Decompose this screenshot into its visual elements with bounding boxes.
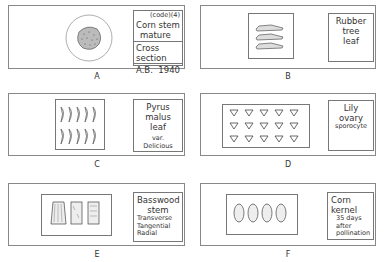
caption-e: E — [87, 250, 107, 259]
label-line1: Corn stem — [136, 20, 180, 30]
slide-f-label: Corn kernel 35 days after pollination — [327, 192, 374, 240]
slide-c-label: Pyrus malus leaf var. Delicious — [133, 99, 183, 152]
caption-f: F — [278, 250, 298, 259]
label-line3: var. Delicious — [137, 135, 179, 150]
caption-c: C — [87, 160, 107, 169]
label-subtitle: Cross section — [134, 41, 182, 63]
caption-d: D — [278, 160, 298, 169]
label-author: A.B. — [136, 65, 153, 75]
label-line2: leaf — [332, 36, 370, 46]
slide-f: Corn kernel 35 days after pollination — [200, 183, 376, 246]
slide-d: Lily ovary sporocyte — [200, 93, 376, 156]
caption-b: B — [278, 72, 298, 81]
label-line1: Rubber tree — [332, 16, 370, 36]
slide-e: Basswood stem Transverse Tangential Radi… — [8, 183, 185, 246]
label-line1: Basswood — [137, 195, 179, 205]
slide-b: Rubber tree leaf — [200, 5, 376, 69]
slide-b-label: Rubber tree leaf — [328, 13, 374, 62]
label-line1: Corn kernel — [331, 195, 370, 215]
label-year: 1940 — [158, 65, 180, 75]
label-code: (code)(4) — [136, 12, 180, 20]
label-line2: leaf — [137, 122, 179, 132]
label-line2: sporocyte — [332, 123, 370, 131]
label-line4: pollination — [331, 230, 370, 238]
slide-a: (code)(4) Corn stem mature Cross section… — [8, 5, 185, 69]
label-line1: Lily ovary — [332, 103, 370, 123]
label-line2: mature — [136, 30, 180, 40]
slide-d-label: Lily ovary sporocyte — [328, 100, 374, 151]
label-line5: Radial — [137, 230, 179, 238]
slide-c: Pyrus malus leaf var. Delicious — [8, 93, 185, 156]
label-line1: Pyrus malus — [137, 102, 179, 122]
slide-e-label: Basswood stem Transverse Tangential Radi… — [133, 192, 183, 242]
caption-a: A — [87, 72, 107, 81]
slide-a-label: (code)(4) Corn stem mature Cross section… — [133, 10, 183, 66]
